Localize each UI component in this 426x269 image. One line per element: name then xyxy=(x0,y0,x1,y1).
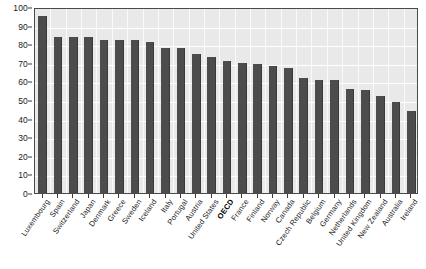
x-axis-category-label: Luxembourg xyxy=(20,198,51,238)
bar xyxy=(253,64,262,193)
bar xyxy=(299,78,308,193)
y-axis-tick-mark xyxy=(28,156,32,157)
y-axis-tick-mark xyxy=(28,175,32,176)
y-axis-tick-label: 40 xyxy=(18,115,28,124)
bar-series xyxy=(35,9,417,193)
y-axis-tick-mark xyxy=(28,138,32,139)
bar xyxy=(223,61,232,193)
bar xyxy=(177,48,186,193)
bar xyxy=(84,37,93,193)
y-axis-tick-label: 10 xyxy=(18,171,28,180)
bar xyxy=(100,40,109,193)
y-axis-tick-label: 50 xyxy=(18,97,28,106)
bar xyxy=(38,16,47,193)
bar xyxy=(330,80,339,193)
y-axis-tick-mark xyxy=(28,63,32,64)
bar xyxy=(69,37,78,193)
bar xyxy=(407,111,416,193)
bar xyxy=(54,37,63,193)
y-axis-tick-mark xyxy=(28,8,32,9)
y-axis-tick-mark xyxy=(28,26,32,27)
y-axis-tick-mark xyxy=(28,101,32,102)
bar xyxy=(161,48,170,193)
y-axis: 0102030405060708090100 xyxy=(0,8,34,194)
y-axis-tick-label: 60 xyxy=(18,78,28,87)
bar xyxy=(376,96,385,193)
bar xyxy=(238,63,247,193)
y-axis-tick-mark xyxy=(28,45,32,46)
bar xyxy=(361,90,370,193)
y-axis-tick-label: 30 xyxy=(18,134,28,143)
y-axis-tick-mark xyxy=(28,82,32,83)
y-axis-tick-label: 70 xyxy=(18,60,28,69)
y-axis-tick-mark xyxy=(28,119,32,120)
y-axis-tick-label: 90 xyxy=(18,22,28,31)
bar xyxy=(131,40,140,193)
bar xyxy=(192,54,201,194)
plot-area xyxy=(34,8,418,194)
y-axis-tick-label: 80 xyxy=(18,41,28,50)
y-axis-tick-label: 20 xyxy=(18,153,28,162)
y-axis-tick-label: 100 xyxy=(13,4,28,13)
bar xyxy=(207,57,216,193)
bar xyxy=(284,68,293,193)
y-axis-tick-mark xyxy=(28,194,32,195)
bar xyxy=(346,89,355,193)
bar xyxy=(146,42,155,193)
bar-chart-figure: 0102030405060708090100 LuxembourgSpainSw… xyxy=(0,0,426,269)
bar xyxy=(269,66,278,193)
bar xyxy=(392,102,401,193)
bar xyxy=(315,80,324,193)
bar xyxy=(115,40,124,193)
x-axis-labels: LuxembourgSpainSwitzerlandJapanDenmarkGr… xyxy=(34,198,418,269)
